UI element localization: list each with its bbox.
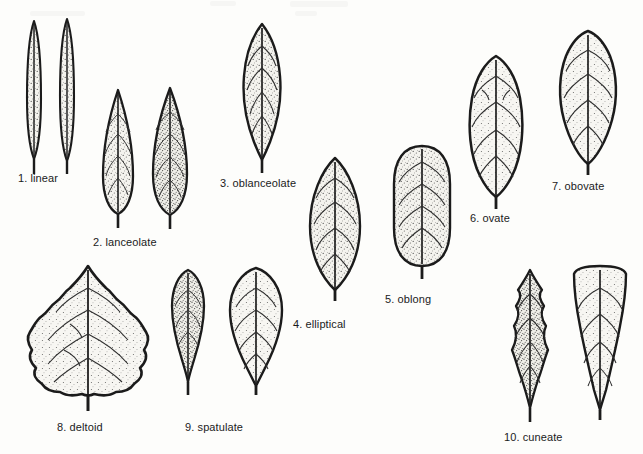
- scan-artifact: [295, 11, 317, 16]
- figure-obovate: [544, 28, 632, 176]
- leaf-specimen: [230, 268, 282, 395]
- caption-ovate: 6. ovate: [470, 212, 510, 225]
- leaf-specimen: [60, 19, 74, 174]
- caption-cuneate: 10. cuneate: [504, 431, 563, 444]
- caption-spatulate: 9. spatulate: [185, 421, 243, 434]
- leaf-specimen: [28, 266, 148, 411]
- leaf-shape-plate: 1. linear: [0, 0, 643, 454]
- leaf-specimen: [394, 146, 450, 279]
- caption-elliptical: 4. elliptical: [293, 318, 346, 331]
- figure-linear: [14, 16, 88, 176]
- leaf-specimen: [244, 24, 281, 173]
- figure-lanceolate: [90, 88, 200, 230]
- figure-cuneate: [498, 262, 634, 422]
- figure-elliptical: [292, 156, 378, 302]
- figure-spatulate: [166, 266, 292, 396]
- leaf-specimen: [574, 266, 626, 420]
- caption-linear: 1. linear: [18, 172, 58, 185]
- caption-deltoid: 8. deltoid: [57, 421, 103, 434]
- caption-lanceolate: 2. lanceolate: [93, 236, 157, 249]
- leaf-specimen: [153, 88, 187, 229]
- caption-oblong: 5. oblong: [385, 293, 431, 306]
- figure-deltoid: [20, 262, 160, 412]
- figure-oblanceolate: [222, 22, 306, 174]
- caption-oblanceolate: 3. oblanceolate: [220, 177, 296, 190]
- leaf-specimen: [172, 270, 204, 395]
- leaf-specimen: [27, 21, 41, 174]
- figure-oblong: [382, 144, 462, 280]
- leaf-specimen: [103, 90, 133, 228]
- leaf-specimen: [512, 270, 548, 422]
- figure-ovate: [452, 52, 540, 210]
- leaf-specimen: [560, 31, 616, 175]
- leaf-specimen: [310, 158, 360, 301]
- scan-artifact: [210, 1, 236, 6]
- leaf-specimen: [470, 56, 523, 209]
- caption-obovate: 7. obovate: [552, 180, 604, 193]
- scan-artifact: [290, 1, 348, 7]
